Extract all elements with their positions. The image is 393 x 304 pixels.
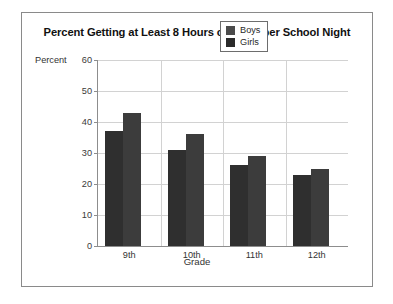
bar-girls-10th <box>186 134 204 246</box>
bar-girls-12th <box>311 169 329 247</box>
y-tick-label: 10 <box>82 210 92 220</box>
y-tick-label: 20 <box>82 179 92 189</box>
bars-layer: 9th10th11th12th <box>98 60 348 246</box>
y-tick-label: 40 <box>82 117 92 127</box>
legend-label: Girls <box>240 38 259 47</box>
legend-item-girls: Girls <box>226 38 260 47</box>
bar-group: 12th <box>286 60 349 246</box>
y-axis-caption: Percent <box>35 55 67 65</box>
legend-swatch-icon <box>226 38 235 47</box>
plot-area: 0102030405060 9th10th11th12th <box>97 60 348 247</box>
bar-girls-11th <box>248 156 266 246</box>
bar-boys-9th <box>105 131 123 246</box>
bar-group: 9th <box>98 60 161 246</box>
y-tick-label: 30 <box>82 148 92 158</box>
figure-frame: Percent Getting at Least 8 Hours of Slee… <box>21 12 373 287</box>
x-axis-caption: Grade <box>22 256 372 267</box>
y-tick-label: 0 <box>87 241 92 251</box>
legend-swatch-icon <box>226 26 235 35</box>
y-tick-label: 50 <box>82 86 92 96</box>
bar-boys-12th <box>293 175 311 246</box>
bar-group: 10th <box>161 60 224 246</box>
bar-group: 11th <box>223 60 286 246</box>
legend-label: Boys <box>240 26 260 35</box>
y-tick-label: 60 <box>82 55 92 65</box>
bar-boys-11th <box>230 165 248 246</box>
y-tick-mark <box>94 246 98 247</box>
legend-item-boys: Boys <box>226 26 260 35</box>
chart-title: Percent Getting at Least 8 Hours of Slee… <box>22 26 372 38</box>
bar-girls-9th <box>123 113 141 246</box>
chart-legend: BoysGirls <box>220 21 268 52</box>
bar-boys-10th <box>168 150 186 246</box>
